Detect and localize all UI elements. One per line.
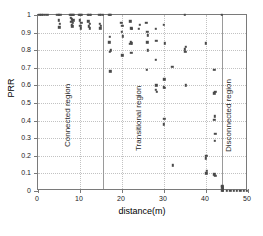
- y-axis-tick-label: 0.7: [5, 63, 31, 70]
- data-point: [46, 14, 48, 16]
- data-point: [89, 14, 91, 16]
- x-axis-tick: [122, 189, 123, 193]
- data-point: [102, 14, 104, 16]
- x-axis-tick-label: 50: [237, 195, 257, 202]
- data-point: [154, 59, 156, 61]
- data-point: [155, 84, 157, 86]
- data-point: [229, 190, 231, 192]
- data-point: [122, 35, 124, 37]
- data-point: [89, 27, 91, 29]
- x-axis-tick-label: 20: [111, 195, 131, 202]
- y-axis-tick: [34, 33, 38, 34]
- data-point: [155, 39, 157, 41]
- data-point: [146, 68, 148, 70]
- x-axis-tick: [80, 189, 81, 193]
- x-axis-tick-label: 40: [195, 195, 215, 202]
- plot-area: Connected regionTransitional regionDisco…: [37, 14, 247, 190]
- data-point: [72, 14, 74, 16]
- data-point: [146, 31, 148, 33]
- y-axis-tick: [34, 156, 38, 157]
- region-divider-line: [222, 15, 223, 189]
- y-axis-tick-label: 0.6: [5, 81, 31, 88]
- data-point: [80, 27, 82, 29]
- data-point: [99, 27, 101, 29]
- data-point: [213, 68, 215, 70]
- data-point: [163, 23, 165, 25]
- y-axis-tick-label: 0.5: [5, 99, 31, 106]
- data-point: [121, 24, 123, 26]
- data-point: [205, 42, 207, 44]
- x-gridline: [122, 15, 123, 189]
- data-point: [80, 14, 82, 16]
- data-point: [236, 190, 238, 192]
- x-axis-tick-label: 0: [27, 195, 47, 202]
- data-point: [59, 14, 61, 16]
- region-annotation: Connected region: [63, 84, 72, 147]
- y-axis-tick-label: 0.8: [5, 46, 31, 53]
- data-point: [233, 190, 235, 192]
- region-annotation: Transitional region: [134, 85, 143, 151]
- data-point: [59, 23, 61, 25]
- data-point: [147, 34, 149, 36]
- y-axis-tick-label: 0.4: [5, 116, 31, 123]
- region-divider-line: [103, 15, 104, 189]
- data-point: [121, 54, 123, 56]
- y-axis-tick-label: 0.3: [5, 134, 31, 141]
- data-point: [239, 190, 241, 192]
- data-point: [129, 20, 131, 22]
- data-point: [109, 70, 111, 72]
- y-gridline: [38, 156, 246, 157]
- y-axis-tick: [34, 68, 38, 69]
- y-axis-tick-label: 0: [5, 187, 31, 194]
- y-axis-tick-label: 0.2: [5, 151, 31, 158]
- data-point: [163, 123, 165, 125]
- data-point: [185, 84, 187, 86]
- data-point: [58, 19, 60, 21]
- y-axis-tick-label: 1: [5, 11, 31, 18]
- data-point: [108, 41, 110, 43]
- x-axis-tick: [248, 189, 249, 193]
- y-gridline: [38, 33, 246, 34]
- x-axis-tick-label: 30: [153, 195, 173, 202]
- data-point: [121, 31, 123, 33]
- y-axis-tick: [34, 103, 38, 104]
- data-point: [58, 26, 60, 28]
- y-axis-tick-label: 0.1: [5, 169, 31, 176]
- y-axis-tick: [34, 173, 38, 174]
- data-point: [146, 41, 148, 43]
- data-point: [131, 28, 133, 30]
- data-point: [138, 23, 140, 25]
- data-point: [109, 51, 111, 53]
- y-axis-tick: [34, 50, 38, 51]
- data-point: [71, 25, 73, 27]
- y-axis-tick: [34, 85, 38, 86]
- data-point: [205, 157, 207, 159]
- data-point: [164, 42, 166, 44]
- x-axis-tick: [206, 189, 207, 193]
- region-annotation: Disconnected region: [224, 80, 233, 153]
- data-point: [184, 14, 186, 16]
- data-point: [214, 175, 216, 177]
- data-point: [220, 14, 222, 16]
- x-axis-title: distance(m): [118, 206, 165, 216]
- data-point: [222, 190, 224, 192]
- data-point: [138, 28, 140, 30]
- x-axis-tick: [38, 189, 39, 193]
- data-point: [145, 22, 147, 24]
- data-point: [164, 87, 166, 89]
- data-point: [154, 28, 156, 30]
- y-axis-tick: [34, 121, 38, 122]
- data-point: [109, 14, 111, 16]
- data-point: [163, 78, 165, 80]
- x-gridline: [80, 15, 81, 189]
- data-point: [246, 190, 248, 192]
- data-point: [156, 90, 158, 92]
- data-point: [163, 118, 165, 120]
- data-point: [226, 190, 228, 192]
- data-point: [172, 164, 174, 166]
- scatter-plot-figure: Connected regionTransitional regionDisco…: [0, 0, 263, 236]
- y-axis-tick: [34, 138, 38, 139]
- y-gridline: [38, 50, 246, 51]
- data-point: [171, 66, 173, 68]
- data-point: [184, 51, 186, 53]
